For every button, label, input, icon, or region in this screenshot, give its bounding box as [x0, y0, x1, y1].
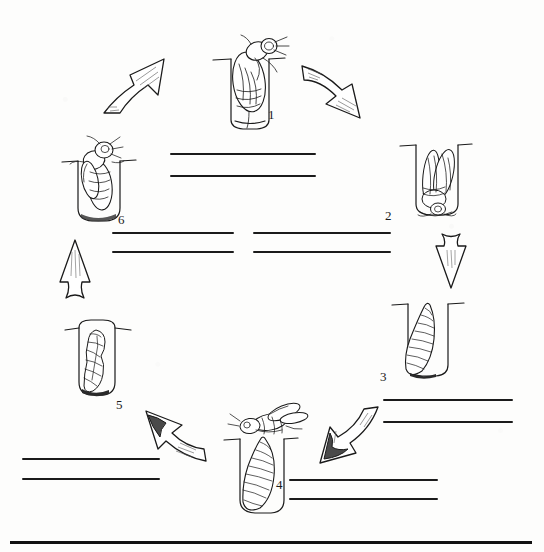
- stage-5-number: 5: [116, 397, 123, 413]
- curved-arrow-down-right-icon: [300, 60, 380, 122]
- arrow-4-to-5: [132, 405, 208, 465]
- larva-small-in-cell-icon: [390, 293, 466, 387]
- curved-arrow-up-right-icon: [100, 55, 174, 117]
- arrow-3-to-4: [306, 405, 382, 467]
- straight-arrow-down-icon: [434, 232, 468, 290]
- stage-2-number: 2: [385, 208, 392, 224]
- stage-3-number: 3: [380, 369, 387, 385]
- straight-arrow-up-icon: [58, 238, 92, 302]
- answer-line-4b[interactable]: [289, 498, 438, 500]
- stage-5-pupa-in-capped-cell: [63, 316, 133, 404]
- answer-line-5b[interactable]: [22, 478, 160, 480]
- stage-4-number: 4: [276, 477, 283, 493]
- bee-laying-egg-in-cell-icon: [398, 136, 474, 228]
- answer-line-4a[interactable]: [289, 479, 438, 481]
- worksheet-sheet: 1 2: [0, 0, 544, 552]
- stage-3-larva-small-in-cell: [390, 293, 466, 387]
- pupa-in-capped-cell-icon: [63, 316, 133, 404]
- arrow-2-to-3: [434, 232, 468, 290]
- answer-line-1b[interactable]: [170, 175, 316, 177]
- answer-line-2a[interactable]: [253, 232, 391, 234]
- curved-arrow-down-left-icon: [306, 405, 382, 467]
- answer-line-3b[interactable]: [383, 421, 513, 423]
- stage-6-number: 6: [118, 212, 125, 228]
- answer-line-3a[interactable]: [383, 399, 513, 401]
- arrow-1-to-2: [300, 60, 380, 122]
- arrow-6-to-1: [100, 55, 174, 117]
- stage-1-number: 1: [268, 107, 275, 123]
- adult-bee-in-cell-icon: [60, 134, 140, 230]
- stage-6-adult-bee-in-cell: [60, 134, 140, 230]
- stage-1-bee-emerging-from-cell: [205, 24, 295, 134]
- answer-line-5a[interactable]: [22, 458, 160, 460]
- bottom-frame-rule: [10, 541, 532, 544]
- answer-line-6a[interactable]: [112, 232, 234, 234]
- stage-2-bee-laying-egg-in-cell: [398, 136, 474, 228]
- arrow-5-to-6: [58, 238, 92, 302]
- curved-arrow-up-left-icon: [132, 405, 208, 465]
- answer-line-6b[interactable]: [112, 251, 234, 253]
- answer-line-1a[interactable]: [170, 153, 316, 155]
- answer-line-2b[interactable]: [253, 251, 391, 253]
- bee-emerging-from-cell-icon: [205, 24, 295, 134]
